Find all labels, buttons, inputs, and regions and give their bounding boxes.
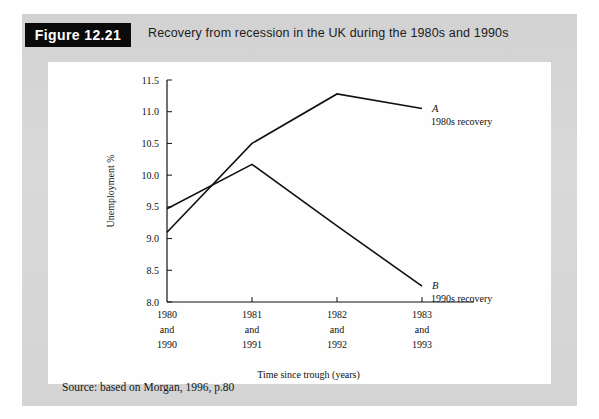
x-axis-tick-label: 1981 (242, 309, 262, 320)
y-axis-tick-label: 8.0 (147, 297, 160, 308)
series-label-group: A1980s recoveryB1990s recovery (431, 103, 492, 305)
figure-title: Recovery from recession in the UK during… (148, 26, 568, 40)
y-axis-tick-label: 10.5 (142, 138, 160, 149)
x-axis-tick-label: 1982 (327, 309, 347, 320)
y-axis-tick-label: 11.5 (142, 75, 159, 86)
y-axis-tick-label: 9.5 (147, 201, 160, 212)
x-axis-tick-label: 1980 (157, 309, 177, 320)
y-axis-title: Unemployment % (105, 154, 116, 227)
y-axis-tick-label: 8.5 (147, 265, 160, 276)
chart-canvas: 8.08.59.09.510.010.511.011.5 1980and1990… (48, 62, 551, 384)
x-axis-tick-label: 1990 (157, 339, 177, 350)
y-axis-tick-label: 11.0 (142, 106, 159, 117)
x-axis-tick-label: 1992 (327, 339, 347, 350)
x-axis-title: Time since trough (years) (257, 369, 360, 381)
x-axis-tick-label: 1983 (412, 309, 432, 320)
x-axis-tick-label: 1991 (242, 339, 262, 350)
series-letter-B: B (432, 280, 439, 291)
data-series-group (167, 94, 422, 286)
line-chart: 8.08.59.09.510.010.511.011.5 1980and1990… (48, 62, 551, 384)
figure-number-badge: Figure 12.21 (25, 23, 131, 47)
source-note: Source: based on Morgan, 1996, p.80 (62, 381, 234, 393)
x-axis-tick-label: and (330, 324, 344, 335)
series-label-B: 1990s recovery (431, 293, 492, 304)
figure-page: Figure 12.21 Recovery from recession in … (0, 0, 599, 419)
y-axis-tick-label: 10.0 (142, 170, 160, 181)
x-axis-tick-label: and (245, 324, 259, 335)
x-axis-tick-label: and (160, 324, 174, 335)
x-axis-tick-label: and (415, 324, 429, 335)
series-line-B (167, 164, 422, 286)
y-axis-tick-label: 9.0 (147, 233, 160, 244)
x-axis-tick-group: 1980and19901981and19911982and19921983and… (157, 297, 432, 350)
series-label-A: 1980s recovery (431, 116, 492, 127)
x-axis-tick-label: 1993 (412, 339, 432, 350)
series-letter-A: A (431, 103, 439, 114)
series-line-A (167, 94, 422, 232)
